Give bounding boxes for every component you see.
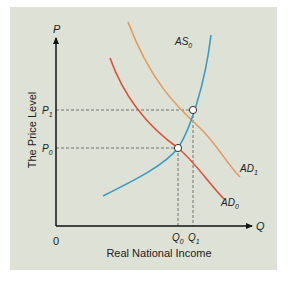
q-axis-label: Q [256,220,265,232]
ad1-label: AD1 [239,163,258,176]
p0-label: P0 [42,143,53,156]
as0-curve [103,35,211,196]
equilibrium-e1 [189,106,196,113]
q0-label: Q0 [172,232,184,245]
ad0-label: AD0 [220,197,239,210]
x-axis-title: Real National Income [106,247,211,259]
equilibrium-e0 [174,144,181,151]
p1-label: P1 [42,105,53,118]
q1-label: Q1 [188,232,200,245]
origin-label: 0 [53,235,59,247]
ad0-curve [110,58,224,199]
as0-label: AS0 [174,36,192,49]
as-ad-diagram: P Q 0 The Price Level Real National Inco… [0,0,289,284]
p-axis-label: P [53,23,61,35]
guide-lines [56,110,193,226]
y-axis-title: The Price Level [26,92,38,168]
